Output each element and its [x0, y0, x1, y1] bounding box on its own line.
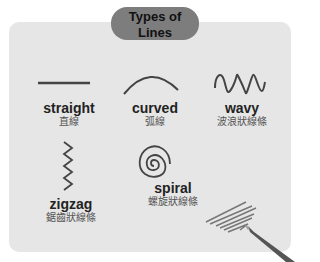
wavy-line-icon: [211, 68, 269, 102]
label-en: zigzag: [36, 197, 106, 212]
item-spiral: spiral 螺旋狀線條: [138, 181, 208, 208]
item-zigzag: zigzag 鋸齒狀線條: [36, 197, 106, 224]
pencil-scribble-icon: [200, 190, 300, 262]
straight-line-icon: [36, 80, 92, 86]
label-en: wavy: [210, 101, 274, 116]
zigzag-line-icon: [58, 140, 78, 194]
label-zh: 鋸齒狀線條: [36, 212, 106, 224]
title-banner: Types of Lines 線條的種類: [111, 7, 199, 40]
label-en: curved: [126, 101, 184, 116]
label-zh: 螺旋狀線條: [138, 196, 208, 208]
label-zh: 直線: [40, 116, 98, 128]
item-straight: straight 直線: [40, 101, 98, 128]
title-english: Types of Lines: [111, 9, 199, 41]
item-wavy: wavy 波浪狀線條: [210, 101, 274, 128]
label-en: straight: [40, 101, 98, 116]
item-curved: curved 弧線: [126, 101, 184, 128]
curved-line-icon: [120, 68, 182, 98]
title-chinese: 線條的種類: [111, 41, 199, 52]
label-zh: 弧線: [126, 116, 184, 128]
label-en: spiral: [138, 181, 208, 196]
spiral-line-icon: [134, 142, 176, 182]
label-zh: 波浪狀線條: [210, 116, 274, 128]
